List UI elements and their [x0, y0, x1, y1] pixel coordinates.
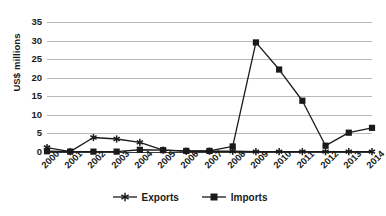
- square-marker: [322, 143, 328, 149]
- x-tick-label: 2014: [365, 149, 386, 171]
- x-tick-label: 2002: [86, 149, 108, 171]
- x-tick-label: 2005: [156, 149, 178, 171]
- square-marker: [369, 125, 375, 131]
- y-tick-label: 35: [22, 17, 42, 27]
- x-tick-label: 2001: [63, 149, 85, 171]
- x-tick-label: 2006: [179, 149, 201, 171]
- legend-label: Imports: [231, 192, 268, 203]
- x-tick-label: 2007: [202, 149, 224, 171]
- y-tick-label: 15: [22, 91, 42, 101]
- x-tick-label: 2003: [109, 149, 131, 171]
- legend-item-imports[interactable]: Imports: [201, 191, 268, 203]
- plot-area: [47, 22, 372, 152]
- square-marker: [253, 39, 259, 45]
- series-layer: [47, 22, 372, 152]
- square-marker: [346, 130, 352, 136]
- x-tick-label: 2010: [272, 149, 294, 171]
- x-tick-label: 2012: [318, 149, 340, 171]
- y-tick-label: 5: [22, 128, 42, 138]
- legend-label: Exports: [142, 192, 179, 203]
- x-tick-label: 2004: [133, 149, 155, 171]
- y-tick-label: 25: [22, 54, 42, 64]
- asterisk-marker: [112, 191, 138, 203]
- y-tick-label: 20: [22, 73, 42, 83]
- square-marker: [210, 194, 217, 201]
- legend-item-exports[interactable]: Exports: [112, 191, 179, 203]
- series-line: [47, 42, 372, 151]
- square-marker: [230, 143, 236, 149]
- square-marker: [299, 98, 305, 104]
- x-tick-label: 2009: [249, 149, 271, 171]
- y-axis-title: US$ millions: [11, 8, 22, 118]
- chart-legend: ExportsImports: [0, 191, 379, 203]
- x-tick-label: 2000: [40, 149, 62, 171]
- y-axis-tick-labels: 05101520253035: [22, 0, 42, 216]
- x-tick-label: 2013: [341, 149, 363, 171]
- square-marker: [201, 191, 227, 203]
- x-tick-label: 2011: [295, 149, 316, 170]
- y-tick-label: 0: [22, 147, 42, 157]
- y-tick-label: 30: [22, 36, 42, 46]
- square-marker: [276, 66, 282, 72]
- x-axis-tick-labels: 2000200120022003200420052006200720082009…: [47, 152, 372, 186]
- y-tick-label: 10: [22, 110, 42, 120]
- x-tick-label: 2008: [225, 149, 247, 171]
